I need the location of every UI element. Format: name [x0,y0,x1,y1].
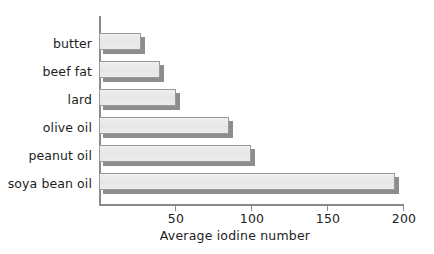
bar-body [99,117,229,134]
bar-lard [99,89,176,106]
bar-beef-fat [99,61,160,78]
x-tick-label-100: 100 [240,211,264,226]
bar-body [99,61,160,78]
category-label-beef-fat: beef fat [0,64,92,79]
category-label-butter: butter [0,36,92,51]
bar-olive-oil [99,117,229,134]
bar-body [99,145,251,162]
category-label-peanut-oil: peanut oil [0,148,92,163]
category-label-soya-bean-oil: soya bean oil [0,176,92,191]
bar-body [99,173,395,190]
bar-peanut-oil [99,145,251,162]
category-label-lard: lard [0,92,92,107]
bar-butter [99,33,141,50]
bar-soya-bean-oil [99,173,395,190]
x-axis-title: Average iodine number [0,228,434,243]
x-tick-label-200: 200 [392,211,416,226]
x-axis-title-text: Average iodine number [160,228,310,243]
chart-page: 50 100 150 200 butter beef fat lard oliv… [0,0,434,254]
x-tick-label-150: 150 [316,211,340,226]
bar-body [99,33,141,50]
bar-body [99,89,176,106]
category-label-olive-oil: olive oil [0,120,92,135]
x-tick-label-50: 50 [168,211,184,226]
bar-chart: 50 100 150 200 butter beef fat lard oliv… [0,0,434,254]
